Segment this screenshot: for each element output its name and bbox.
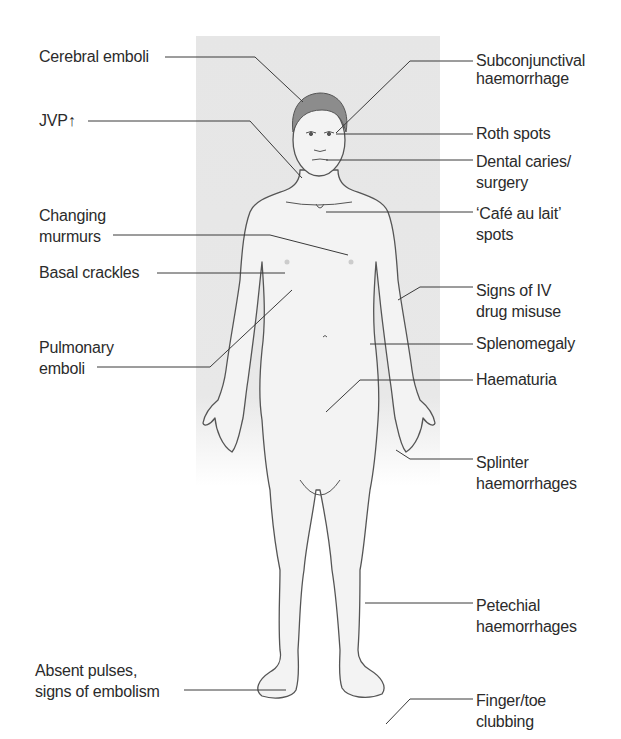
label-pulmonary-emboli: Pulmonary emboli xyxy=(39,337,114,379)
label-petechial-haemorrhages: Petechial haemorrhages xyxy=(476,595,577,637)
label-iv-drug-misuse: Signs of IV drug misuse xyxy=(476,280,561,322)
label-dental-caries: Dental caries/ surgery xyxy=(476,151,571,193)
label-splenomegaly: Splenomegaly xyxy=(476,335,575,353)
label-subconjunctival-haemorrhage: Subconjunctival haemorrhage xyxy=(476,52,585,88)
label-cerebral-emboli: Cerebral emboli xyxy=(39,48,149,66)
label-absent-pulses: Absent pulses, signs of embolism xyxy=(35,660,160,702)
label-splinter-haemorrhages: Splinter haemorrhages xyxy=(476,452,577,494)
label-roth-spots: Roth spots xyxy=(476,125,551,143)
label-finger-toe-clubbing: Finger/toe clubbing xyxy=(476,690,546,732)
label-haematuria: Haematuria xyxy=(476,371,557,389)
label-jvp-raised: JVP↑ xyxy=(39,112,76,130)
torso-outline xyxy=(203,170,435,698)
label-cafe-au-lait-spots: ‘Café au lait’ spots xyxy=(476,203,561,245)
label-changing-murmurs: Changing murmurs xyxy=(39,205,106,247)
label-basal-crackles: Basal crackles xyxy=(39,264,139,282)
